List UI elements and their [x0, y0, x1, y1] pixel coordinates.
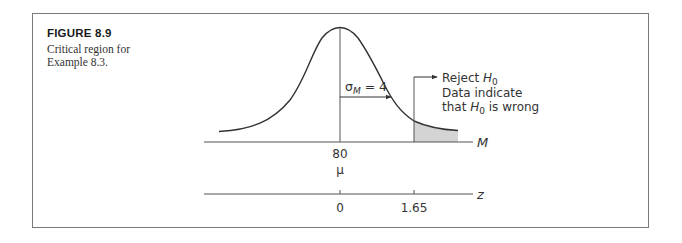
m-axis-label: M — [477, 135, 488, 150]
normal-curve — [219, 28, 458, 132]
h0-wrong-label: that H0 is wrong — [442, 100, 539, 116]
m-tick-80: 80 — [332, 147, 347, 161]
sigma-label: σM = 4 — [345, 79, 387, 96]
data-indicate-label: Data indicate — [442, 86, 522, 100]
normal-distribution-chart: M σM = 4 Reject H0 Data indicate that H0… — [0, 0, 682, 243]
mu-label: μ — [336, 163, 344, 177]
z-axis-label: z — [476, 187, 485, 202]
z-tick-label-0: 0 — [336, 201, 344, 215]
reject-h0-label: Reject H0 — [442, 71, 498, 87]
z-tick-label-165: 1.65 — [401, 201, 428, 215]
